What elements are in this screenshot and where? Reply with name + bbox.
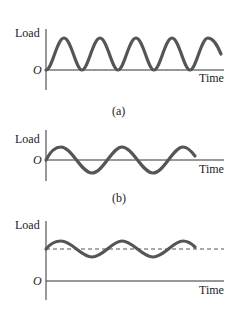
panel-b-x-label: Time (199, 163, 224, 175)
panel-a-load-curve (46, 38, 221, 70)
panel-a (46, 29, 224, 90)
panel-a-origin-label: O (33, 64, 42, 76)
panel-c-origin-label: O (33, 275, 42, 287)
panel-b (46, 130, 224, 181)
panel-a-caption: (a) (112, 105, 125, 117)
panel-c-y-label: Load (15, 219, 40, 231)
panel-b-y-label: Load (15, 133, 40, 145)
panel-c (46, 221, 224, 300)
panel-a-x-label: Time (199, 72, 224, 84)
panel-b-origin-label: O (33, 154, 42, 166)
panel-c-x-label: Time (199, 284, 224, 296)
panel-a-y-label: Load (15, 27, 40, 39)
panel-b-caption: (b) (112, 192, 126, 204)
